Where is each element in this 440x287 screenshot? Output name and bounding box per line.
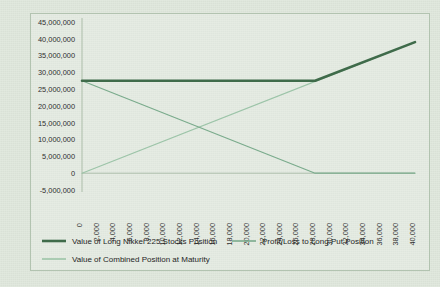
x-axis-tick-label: 40,000 [408,223,417,246]
legend-label: Profit/Loss to Long Put Position [262,237,374,246]
x-axis-tick-label: 18,000 [225,223,234,246]
y-axis-tick-label: 15,000,000 [38,119,75,128]
legend-label: Value of Combined Position at Maturity [72,255,210,264]
x-axis-tick-label: 36,000 [375,223,384,246]
y-axis-tick-label: 25,000,000 [38,85,75,94]
y-axis-tick-label: 5,000,000 [42,152,75,161]
series-line [82,81,415,173]
y-axis-tick-labels: 45,000,00040,000,00035,000,00030,000,000… [38,18,75,195]
x-axis-tick-label: 0 [75,223,84,227]
series-line [82,42,415,81]
y-axis-tick-label: -5,000,000 [40,186,75,195]
y-axis-tick-label: 10,000,000 [38,135,75,144]
y-axis-tick-label: 40,000,000 [38,35,75,44]
legend-label: Value of Long Nikkei 225 Stocks Position [72,237,217,246]
y-axis-tick-label: 30,000,000 [38,68,75,77]
y-axis-tick-label: 45,000,000 [38,18,75,27]
chart-figure: 45,000,00040,000,00035,000,00030,000,000… [0,0,440,287]
y-axis-tick-label: 20,000,000 [38,102,75,111]
x-axis-tick-label: 20,000 [242,223,251,246]
x-axis-tick-label: 38,000 [391,223,400,246]
y-axis-tick-label: 35,000,000 [38,51,75,60]
chart-canvas: 45,000,00040,000,00035,000,00030,000,000… [0,0,440,287]
y-axis-tick-label: 0 [71,169,75,178]
chart-legend: Value of Long Nikkei 225 Stocks Position… [42,237,374,264]
